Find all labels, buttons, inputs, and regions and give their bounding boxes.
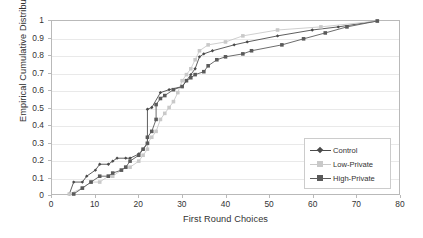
x-tick-label: 20	[123, 199, 153, 209]
series-marker	[206, 64, 210, 68]
series-marker	[128, 165, 132, 169]
series-marker	[319, 25, 323, 29]
series-marker	[68, 192, 72, 196]
series-marker	[193, 58, 197, 62]
x-tick-label: 50	[254, 199, 284, 209]
series-marker	[323, 31, 327, 35]
series-marker	[81, 186, 85, 190]
series-marker	[141, 147, 145, 151]
x-tick-label: 30	[167, 199, 197, 209]
series-marker	[215, 58, 219, 62]
series-marker	[150, 130, 154, 134]
series-marker	[150, 135, 154, 139]
legend-symbol	[317, 161, 323, 167]
series-marker	[111, 174, 115, 178]
legend-marker-icon	[310, 145, 331, 156]
series-marker	[124, 157, 127, 160]
series-marker	[154, 103, 158, 107]
series-marker	[198, 49, 202, 53]
series-marker	[141, 153, 145, 157]
series-marker	[163, 112, 167, 116]
series-marker	[159, 118, 163, 122]
series-marker	[128, 159, 132, 163]
series-marker	[224, 40, 228, 44]
series-marker	[111, 171, 115, 175]
series-marker	[245, 40, 248, 43]
x-tick-mark	[51, 195, 52, 198]
series-marker	[172, 100, 176, 104]
series-marker	[232, 43, 235, 46]
x-tick-label: 60	[298, 199, 328, 209]
series-marker	[120, 168, 124, 172]
x-tick-mark	[269, 195, 270, 198]
legend-label: Low-Private	[331, 160, 373, 169]
legend-label: High-Private	[331, 174, 375, 183]
series-marker	[107, 174, 111, 178]
series-marker	[146, 142, 150, 146]
legend-label: Control	[331, 146, 357, 155]
x-tick-mark	[226, 195, 227, 198]
series-marker	[185, 79, 189, 83]
series-marker	[302, 37, 306, 41]
series-marker	[280, 43, 284, 47]
series-marker	[189, 76, 193, 80]
series-marker	[276, 34, 279, 37]
series-marker	[180, 79, 184, 83]
series-marker	[154, 118, 158, 122]
legend-item[interactable]: Control	[310, 143, 387, 157]
x-tick-label: 70	[341, 199, 371, 209]
series-marker	[376, 19, 380, 23]
x-tick-label: 10	[80, 199, 110, 209]
series-marker	[345, 25, 349, 29]
series-marker	[137, 153, 141, 157]
legend-symbol	[317, 175, 323, 181]
series-marker	[172, 88, 176, 92]
series-marker	[185, 73, 189, 77]
x-tick-mark	[356, 195, 357, 198]
series-marker	[206, 43, 210, 47]
chart-legend: ControlLow-PrivateHigh-Private	[304, 138, 391, 189]
legend-item[interactable]: High-Private	[310, 171, 387, 185]
series-marker	[337, 25, 340, 28]
legend-symbol	[317, 147, 324, 154]
series-marker	[124, 165, 128, 169]
series-marker	[72, 180, 75, 183]
legend-marker-icon	[310, 173, 331, 184]
series-marker	[202, 70, 206, 74]
x-tick-mark	[400, 195, 401, 198]
series-marker	[72, 192, 76, 196]
x-tick-mark	[313, 195, 314, 198]
series-marker	[163, 94, 167, 98]
series-marker	[167, 106, 171, 110]
series-marker	[98, 180, 102, 184]
series-marker	[154, 130, 158, 134]
x-tick-mark	[138, 195, 139, 198]
series-marker	[180, 85, 184, 89]
x-tick-mark	[182, 195, 183, 198]
series-marker	[193, 73, 197, 77]
series-marker	[241, 34, 245, 38]
series-marker	[250, 49, 254, 53]
series-marker	[159, 97, 163, 101]
series-marker	[146, 135, 150, 139]
series-marker	[167, 88, 170, 91]
series-marker	[311, 28, 314, 31]
x-tick-label: 0	[36, 199, 66, 209]
chart-container: Empirical Cumulative Distribution First …	[0, 0, 423, 238]
series-marker	[137, 159, 141, 163]
series-marker	[276, 28, 280, 32]
x-tick-label: 80	[385, 199, 415, 209]
series-marker	[89, 180, 93, 184]
x-tick-label: 40	[211, 199, 241, 209]
series-marker	[224, 55, 228, 59]
series-marker	[146, 147, 150, 151]
legend-marker-icon	[310, 159, 331, 170]
series-marker	[146, 108, 149, 111]
series-marker	[176, 91, 180, 95]
legend-item[interactable]: Low-Private	[310, 157, 387, 171]
series-marker	[98, 174, 102, 178]
x-tick-mark	[95, 195, 96, 198]
series-marker	[241, 52, 245, 56]
series-marker	[211, 49, 214, 52]
series-marker	[189, 67, 193, 71]
